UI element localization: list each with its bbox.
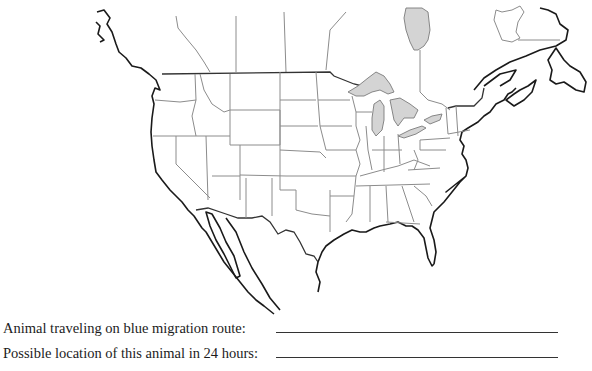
- lake-michigan: [372, 100, 384, 136]
- newfoundland: [548, 48, 586, 92]
- question-label: Animal traveling on blue migration route…: [3, 320, 246, 336]
- lake-ontario: [424, 114, 442, 124]
- james-bay: [404, 8, 430, 50]
- us-canada-border: [162, 72, 362, 86]
- lake-erie: [398, 126, 426, 138]
- question-location-24h: Possible location of this animal in 24 h…: [3, 345, 258, 362]
- gulf-coastline: [316, 222, 434, 292]
- lake-huron: [390, 98, 418, 126]
- answer-line-migration-route[interactable]: [276, 316, 558, 333]
- state-borders: [153, 72, 470, 232]
- north-america-map: [0, 0, 592, 320]
- atlantic-coastline: [430, 88, 516, 264]
- question-migration-route: Animal traveling on blue migration route…: [3, 320, 246, 337]
- answer-line-location-24h[interactable]: [276, 341, 558, 358]
- question-label: Possible location of this animal in 24 h…: [3, 345, 258, 361]
- baja-california: [206, 212, 240, 278]
- pacific-coastline: [97, 10, 274, 314]
